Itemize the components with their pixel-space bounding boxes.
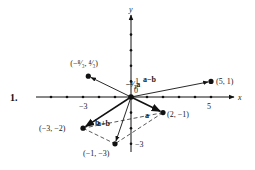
x-tick [178, 96, 181, 99]
vector-a [131, 97, 160, 111]
x-tick [66, 96, 69, 99]
vector-diagram: 1. xy0−351−3 aba+ba−b−⁴⁄₃a (2, −1)(−3, −… [0, 0, 255, 170]
point-label-apb: (−1, −3) [83, 149, 110, 158]
x-tick [162, 96, 165, 99]
point-scaled [86, 74, 91, 79]
x-tick [82, 96, 85, 99]
vector-label-a: a [145, 111, 149, 120]
vector-label-apb: a+b [97, 119, 111, 128]
point-amb [208, 79, 213, 84]
vector-label-scaled: −⁴⁄₃a [126, 80, 141, 89]
y-tick [130, 111, 133, 114]
point-label-scaled: (−⁸⁄₃, ⁴⁄₃) [70, 59, 98, 68]
x-tick [50, 96, 53, 99]
x-tick [146, 96, 149, 99]
x-tick [210, 96, 213, 99]
point-apb [112, 141, 117, 146]
vectors: aba+ba−b−⁴⁄₃a [86, 75, 209, 141]
point-label-b: (−3, −2) [39, 124, 66, 133]
x-tick-label: −3 [79, 102, 88, 111]
y-tick [130, 33, 133, 36]
vector-amb [131, 82, 208, 97]
x-axis-label: x [237, 93, 242, 102]
vector-label-amb: a−b [143, 75, 157, 84]
point-label-amb: (5, 1) [216, 77, 234, 86]
x-tick [114, 96, 117, 99]
x-tick-label: 5 [207, 102, 211, 111]
y-tick [130, 127, 133, 130]
point-b [80, 126, 85, 131]
x-tick [98, 96, 101, 99]
y-tick [130, 143, 133, 146]
point-a [160, 110, 165, 115]
x-tick [194, 96, 197, 99]
y-tick-label: −3 [135, 140, 144, 149]
y-axis-label: y [128, 5, 133, 14]
origin-point [128, 94, 134, 100]
point-label-a: (2, −1) [167, 110, 189, 119]
y-tick [130, 49, 133, 52]
dashed-segment [83, 128, 115, 144]
axes: xy0−351−3 [36, 5, 242, 152]
problem-number: 1. [10, 92, 18, 103]
y-tick [130, 65, 133, 68]
y-tick [130, 18, 133, 21]
